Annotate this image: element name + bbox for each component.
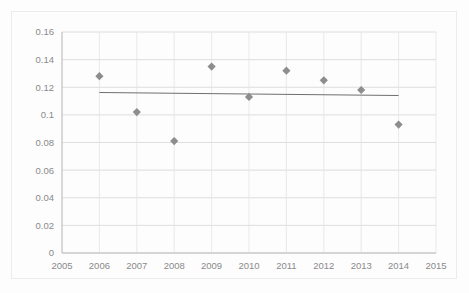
x-tick-label: 2009 — [201, 260, 222, 271]
x-tick-label: 2010 — [238, 260, 259, 271]
y-tick-label: 0.14 — [36, 54, 55, 65]
chart-container: 00.020.040.060.080.10.120.140.16 2005200… — [0, 0, 469, 293]
x-tick-label: 2011 — [276, 260, 296, 271]
x-tick-label: 2012 — [313, 260, 334, 271]
y-tick-label: 0.16 — [36, 26, 55, 37]
data-point-marker — [395, 120, 403, 128]
y-tick-label: 0 — [49, 247, 54, 258]
y-tick-label: 0.04 — [36, 192, 55, 203]
x-tick-label: 2007 — [126, 260, 147, 271]
x-tick-label: 2006 — [89, 260, 110, 271]
plot-area-wrapper: 00.020.040.060.080.10.120.140.16 2005200… — [0, 0, 469, 293]
y-tick-label: 0.06 — [36, 165, 55, 176]
x-axis-tick-labels: 2005200620072008200920102011201220132014… — [51, 260, 446, 271]
y-axis-tick-labels: 00.020.040.060.080.10.120.140.16 — [36, 26, 55, 258]
scatter-chart-svg: 00.020.040.060.080.10.120.140.16 2005200… — [0, 0, 469, 293]
y-tick-label: 0.08 — [36, 137, 55, 148]
y-tick-label: 0.1 — [41, 109, 54, 120]
data-point-marker — [282, 67, 290, 75]
data-point-marker — [95, 72, 103, 80]
x-tick-label: 2013 — [351, 260, 372, 271]
y-tick-label: 0.12 — [36, 82, 55, 93]
x-tick-label: 2005 — [51, 260, 72, 271]
x-tick-label: 2015 — [425, 260, 446, 271]
y-tick-label: 0.02 — [36, 220, 55, 231]
x-tick-label: 2014 — [388, 260, 409, 271]
data-point-marker — [170, 137, 178, 145]
x-tick-label: 2008 — [164, 260, 185, 271]
data-point-marker — [208, 62, 216, 70]
data-point-marker — [320, 76, 328, 84]
